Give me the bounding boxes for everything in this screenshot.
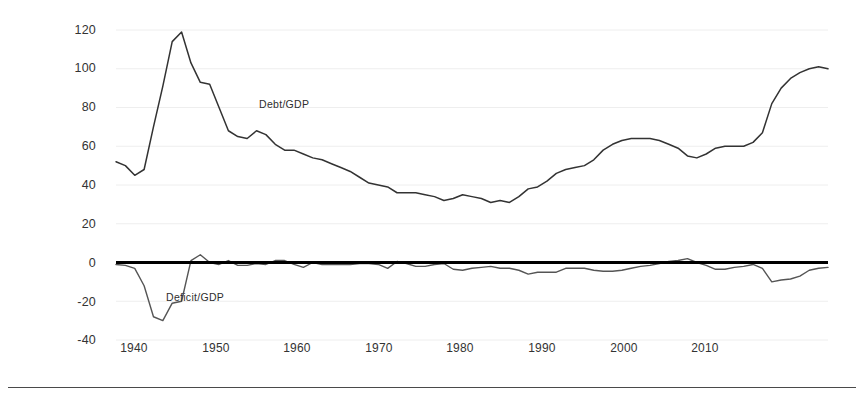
x-tick-1940: 1940 <box>104 341 164 355</box>
y-tick-100: 100 <box>50 61 96 75</box>
y-tick-40: 40 <box>50 178 96 192</box>
debt-series-label: Debt/GDP <box>259 98 309 110</box>
deficit-gdp-line <box>116 255 828 321</box>
x-tick-2000: 2000 <box>594 341 654 355</box>
x-tick-1970: 1970 <box>349 341 409 355</box>
y-tick-80: 80 <box>50 100 96 114</box>
y-tick-neg20: -20 <box>50 295 96 309</box>
y-tick-0: 0 <box>50 256 96 270</box>
chart-figure: (Percent of GDP) 120 100 80 60 40 20 0 -… <box>0 0 864 400</box>
x-tick-1950: 1950 <box>186 341 246 355</box>
deficit-series-label: Deficit/GDP <box>166 291 224 303</box>
x-tick-1980: 1980 <box>430 341 490 355</box>
x-tick-1990: 1990 <box>512 341 572 355</box>
plot-area <box>0 0 864 400</box>
y-tick-neg40: -40 <box>50 333 96 347</box>
y-tick-20: 20 <box>50 217 96 231</box>
x-tick-1960: 1960 <box>267 341 327 355</box>
x-tick-2010: 2010 <box>675 341 735 355</box>
y-tick-60: 60 <box>50 139 96 153</box>
debt-gdp-line <box>116 32 828 203</box>
y-tick-120: 120 <box>50 23 96 37</box>
bottom-divider-rule <box>8 387 856 388</box>
